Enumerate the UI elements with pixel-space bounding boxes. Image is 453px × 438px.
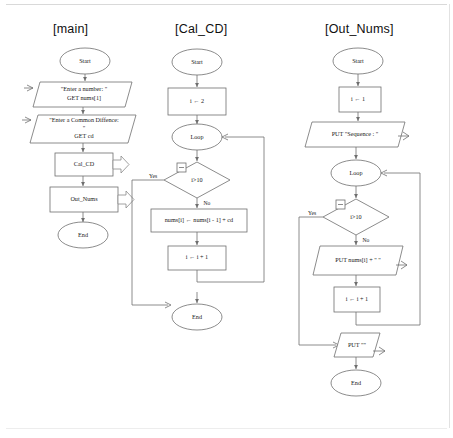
node-calcd-condition-label: i>10 bbox=[191, 176, 202, 183]
node-main-call-out-nums-label: Out_Nums bbox=[70, 195, 98, 202]
node-calcd-end-label: End bbox=[192, 313, 203, 320]
node-calcd-init-label: i ← 2 bbox=[190, 97, 204, 104]
node-main-start-label: Start bbox=[79, 57, 91, 64]
panel-cal-cd: Start i ← 2 Loop i>10 Yes No nums[i] ← n… bbox=[132, 49, 264, 330]
edge-label-calcd-no: No bbox=[204, 200, 211, 206]
node-calcd-start-label: Start bbox=[191, 58, 203, 65]
node-outnums-print-item-label: PUT nums[i] + " " bbox=[335, 256, 381, 263]
panel-out-nums: Start i ← 1 PUT "Sequence : " Loop i>10 … bbox=[299, 48, 420, 396]
edge-label-outnums-yes: Yes bbox=[308, 210, 316, 216]
callout-arrow-cal-cd bbox=[113, 156, 129, 173]
node-main-call-cal-cd-label: Cal_CD bbox=[74, 160, 95, 167]
conn-outnums-yes-to-newline bbox=[299, 217, 336, 345]
node-outnums-loop-label: Loop bbox=[349, 169, 362, 176]
edge-label-outnums-no: No bbox=[363, 237, 370, 243]
edge-label-calcd-yes: Yes bbox=[149, 173, 157, 179]
node-outnums-condition-label: i>10 bbox=[350, 213, 361, 220]
node-calcd-body-label: nums[i] ← nums[i - 1] + cd bbox=[165, 216, 234, 223]
node-outnums-print-newline-label: PUT "" bbox=[348, 341, 367, 348]
node-main-end-label: End bbox=[78, 231, 89, 238]
node-outnums-increment-label: i ← i + 1 bbox=[346, 295, 368, 302]
node-main-input-cd-line1: "Enter a Common Diffence: bbox=[49, 116, 119, 123]
node-outnums-init-label: i ← 1 bbox=[351, 95, 365, 102]
node-outnums-start-label: Start bbox=[352, 57, 364, 64]
node-calcd-increment-label: i ← i + 1 bbox=[186, 253, 208, 260]
node-calcd-loop-label: Loop bbox=[190, 133, 203, 140]
panel-main: Start "Enter a number: " GET nums[1] "En… bbox=[22, 48, 136, 248]
node-main-input-cd-line3: GET cd bbox=[74, 132, 94, 139]
node-main-input-number-line1: "Enter a number: " bbox=[61, 85, 108, 92]
node-main-input-number-line2: GET nums[1] bbox=[67, 94, 101, 101]
node-outnums-end-label: End bbox=[351, 379, 362, 386]
flowchart-canvas: Start "Enter a number: " GET nums[1] "En… bbox=[0, 0, 453, 438]
diagram-page: [main] [Cal_CD] [Out_Nums] Start "Enter … bbox=[0, 0, 453, 438]
conn-calcd-yes-to-end bbox=[132, 180, 168, 305]
node-outnums-print-header-label: PUT "Sequence : " bbox=[332, 130, 379, 137]
